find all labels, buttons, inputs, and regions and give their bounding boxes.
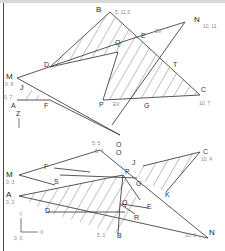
coord-front-B: 5, 0 (97, 233, 105, 238)
coord-top-M: 0, 8 (5, 82, 13, 87)
label-front-G: G (136, 180, 141, 187)
top-view (17, 12, 200, 135)
label-front-C: C (203, 148, 208, 155)
label-top-G: G (144, 102, 149, 109)
coord-front-O: 5, 4 (95, 149, 103, 154)
front-hatch-right (137, 152, 200, 192)
label-top-O: O (116, 141, 121, 148)
label-z-axis: Z (16, 110, 20, 117)
label-front-J: J (132, 159, 136, 166)
label-front-S: S (54, 178, 59, 185)
ev-top-E: EV (155, 29, 162, 34)
label-top-T: T (173, 61, 177, 68)
label-front-K: K (165, 191, 170, 198)
label-top-N: N (194, 16, 200, 24)
coord-front-C: 10, 4 (201, 157, 212, 162)
label-top-Q: Q (115, 39, 120, 46)
label-front-P: P (125, 168, 130, 175)
ev-top-P: EV (113, 102, 120, 107)
label-top-C: C (201, 86, 206, 93)
label-y-axis: Y (19, 212, 22, 217)
label-top-P: P (99, 101, 104, 108)
drawing-svg (0, 0, 225, 251)
label-front-E: E (147, 203, 152, 210)
label-top-A: A (11, 102, 16, 109)
label-front-O: O (116, 149, 121, 156)
label-top-B: B (96, 6, 101, 14)
xy-axis (21, 218, 38, 232)
label-origin: 0, 0 (14, 236, 22, 241)
label-top-D: D (44, 61, 49, 68)
label-top-M: M (6, 73, 13, 81)
label-front-F: F (44, 163, 48, 170)
coord-top-B: 5, 11.5 (115, 10, 130, 15)
label-front-R: R (134, 214, 139, 221)
coord-front-N: 10, 0 (185, 233, 196, 238)
coord-top-C: 10, 7 (199, 101, 210, 106)
coord-front-A: 0, 2 (6, 200, 14, 205)
label-front-D: D (45, 207, 50, 214)
top-hatch-main (50, 12, 200, 100)
drawing-canvas: B 5, 11.5 N 10, 11 E EV Q T C 10, 7 G P … (0, 0, 225, 251)
label-front-M: M (6, 171, 13, 179)
coord-front-M: 0, 3 (6, 180, 14, 185)
coord-top-N: 10, 11 (203, 24, 217, 29)
label-top-F: F (44, 102, 48, 109)
coord-top-O: 5, 5 (92, 141, 100, 146)
label-front-B: B (117, 232, 122, 239)
label-x-axis: X (40, 230, 43, 235)
label-front-N: N (209, 229, 215, 237)
label-front-A: A (6, 191, 11, 199)
coord-top-A: 0, 7 (4, 95, 12, 100)
label-top-E: E (141, 32, 146, 39)
label-front-Q: Q (122, 199, 127, 206)
label-top-J: J (20, 84, 24, 91)
